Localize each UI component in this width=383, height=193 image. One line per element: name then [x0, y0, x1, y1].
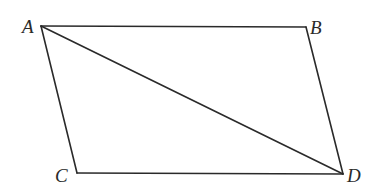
edge-bd — [306, 27, 343, 174]
edge-ca — [41, 26, 77, 173]
diagonal-ad — [41, 26, 343, 174]
vertex-label-c: C — [55, 165, 68, 186]
vertex-label-a: A — [20, 16, 34, 37]
parallelogram-diagram: A B C D — [0, 0, 383, 193]
edge-ab — [41, 26, 306, 27]
vertex-label-d: D — [346, 165, 361, 186]
vertex-label-b: B — [310, 17, 322, 38]
edge-dc — [77, 173, 343, 174]
